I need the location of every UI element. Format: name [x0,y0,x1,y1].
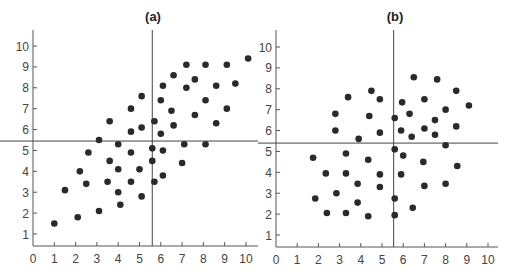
x-tick-label: 5 [379,253,386,267]
data-point [400,152,407,159]
y-tick-label: 5 [22,144,29,158]
y-tick-label: 6 [22,123,29,137]
data-point [62,187,69,194]
x-tick-label: 5 [136,252,143,266]
data-point [343,170,350,177]
data-point [466,102,473,109]
data-point [453,123,460,130]
data-point [192,112,199,119]
data-point [323,170,330,177]
data-point [377,96,384,103]
data-point [391,212,398,219]
data-point [421,96,428,103]
data-point [324,210,331,217]
data-point [74,214,81,221]
x-tick-label: 1 [294,253,301,267]
data-point [391,195,398,202]
data-point [232,80,239,87]
data-point [442,142,449,149]
data-point [442,181,449,188]
scatter-panel-a: (a) 01234567891012345678910 [0,0,258,279]
data-point [149,145,156,152]
y-tick-label: 10 [259,41,273,55]
data-point [343,150,350,157]
data-point [442,106,449,113]
y-tick-label: 2 [265,208,272,222]
x-tick-label: 1 [51,252,58,266]
x-tick-label: 7 [179,252,186,266]
x-tick-label: 3 [94,252,101,266]
data-point [377,129,384,136]
data-point [454,163,461,170]
data-point [96,137,103,144]
data-point [83,181,90,188]
data-point [202,141,209,148]
x-tick-label: 3 [336,253,343,267]
data-point [354,199,361,206]
x-tick-label: 2 [315,253,322,267]
y-tick-label: 7 [265,103,272,117]
y-tick-label: 3 [265,187,272,201]
data-point [368,88,375,95]
data-point [213,82,220,89]
data-point [85,149,92,156]
data-point [51,220,58,227]
data-point [377,184,384,191]
y-tick-label: 7 [22,102,29,116]
x-tick-label: 10 [239,252,253,266]
y-tick-label: 3 [22,186,29,200]
data-point [160,147,167,154]
x-tick-label: 2 [72,252,79,266]
data-point [183,62,190,69]
data-point [312,195,319,202]
data-point [115,141,122,148]
y-tick-label: 4 [22,165,29,179]
data-point [391,115,398,122]
y-tick-label: 9 [22,60,29,74]
data-point [168,107,175,114]
x-tick-label: 8 [442,253,449,267]
data-point [434,76,441,83]
data-point [202,97,209,104]
data-point [345,94,352,101]
data-point [333,190,340,197]
x-tick-label: 9 [221,252,228,266]
y-tick-label: 2 [22,207,29,221]
data-point [138,93,145,100]
y-tick-label: 6 [265,124,272,138]
y-tick-label: 10 [16,40,30,54]
data-point [332,111,339,118]
data-point [136,166,143,173]
data-point [406,111,413,118]
data-point [160,172,167,179]
data-point [128,105,135,112]
y-tick-label: 5 [265,145,272,159]
data-point [115,166,122,173]
data-point [398,171,405,178]
x-tick-label: 4 [115,252,122,266]
data-point [408,134,415,141]
data-point [332,127,339,134]
data-point [409,205,416,212]
scatter-panel-b: (b) 01234567891012345678910 [258,0,516,279]
y-tick-label: 8 [265,82,272,96]
data-point [391,146,398,153]
data-point [192,76,199,83]
x-tick-label: 4 [357,253,364,267]
data-point [432,117,439,124]
x-tick-label: 9 [463,253,470,267]
data-point [128,128,135,135]
data-point [106,158,113,165]
y-tick-label: 1 [22,228,29,242]
data-point [398,127,405,134]
scatter-plot-b: 01234567891012345678910 [258,0,516,279]
data-point [421,183,428,190]
data-point [421,125,428,132]
data-point [138,193,145,200]
x-tick-label: 7 [421,253,428,267]
data-point [106,118,113,125]
x-tick-label: 8 [200,252,207,266]
x-tick-label: 10 [481,253,495,267]
data-point [310,154,317,161]
data-point [365,157,372,164]
